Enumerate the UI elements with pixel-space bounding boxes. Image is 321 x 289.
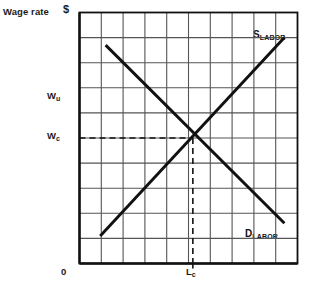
labor-market-figure: Wage rate $ Wu Wc 0 Lc SLABOR DLABOR (0, 0, 321, 289)
curve-lines (100, 38, 284, 236)
plot-area (0, 0, 321, 289)
dashed-guide-lines (80, 138, 193, 269)
